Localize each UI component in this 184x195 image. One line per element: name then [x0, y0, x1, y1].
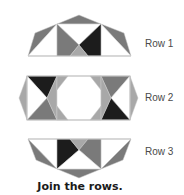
- row-2-pieces: [19, 76, 138, 120]
- row-2-label: Row 2: [145, 92, 173, 103]
- row-3-label: Row 3: [145, 146, 173, 157]
- row-1-pieces: [28, 15, 131, 56]
- row-1-label: Row 1: [145, 38, 173, 49]
- row-3-pieces: [28, 139, 131, 178]
- instruction-caption: Join the rows.: [0, 180, 160, 193]
